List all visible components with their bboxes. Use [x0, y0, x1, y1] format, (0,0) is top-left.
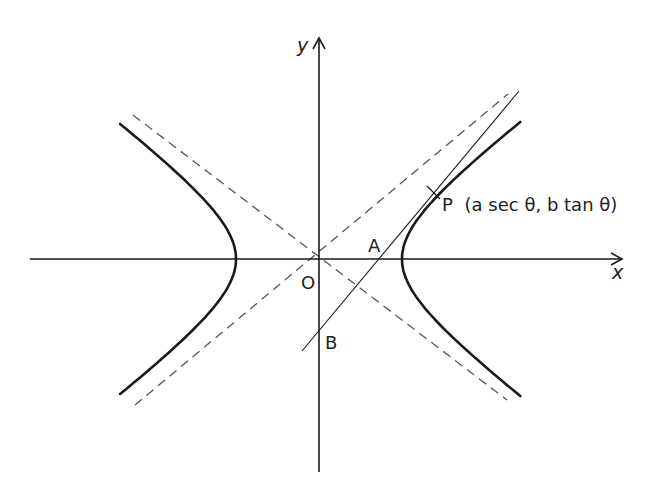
- point-a-label: A: [368, 235, 381, 256]
- y-axis-label: y: [296, 34, 309, 56]
- asymptote-positive-slope: [135, 94, 508, 405]
- tangent-line: [302, 91, 519, 351]
- x-axis-label: x: [611, 261, 624, 283]
- point-b-label: B: [325, 332, 337, 353]
- point-p-label: P (a sec θ, b tan θ): [442, 194, 617, 215]
- asymptote-negative-slope: [133, 115, 507, 400]
- hyperbola-diagram: y x O A B P (a sec θ, b tan θ): [0, 0, 649, 502]
- point-p-coords: (a sec θ, b tan θ): [465, 194, 618, 215]
- point-p-name: P: [442, 194, 453, 215]
- origin-label: O: [301, 272, 315, 293]
